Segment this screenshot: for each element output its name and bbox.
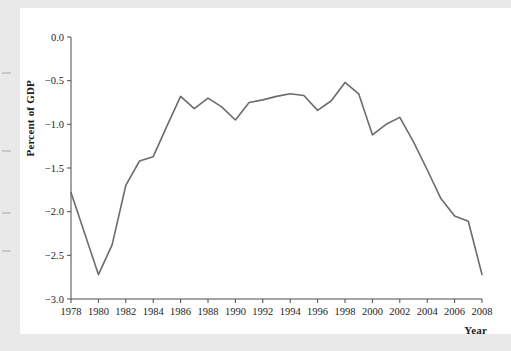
x-tick-label: 1984 [143,306,165,317]
x-tick-label: 1988 [198,306,219,317]
y-tick-label: −0.5 [45,75,64,86]
x-tick-label: 1998 [335,306,356,317]
x-tick-label: 1986 [170,306,191,317]
x-tick-label: 1996 [307,306,328,317]
y-axis-title: Percent of GDP [24,80,36,157]
x-tick-label: 1994 [280,306,302,317]
x-axis-ticks: 1978198019821984198619881990199219941996… [61,299,493,317]
x-tick-label: 2002 [389,306,410,317]
page-root: Percent of GDP Year 0.0−0.5−1.0−1.5−2.0−… [0,0,511,351]
y-axis-ticks: 0.0−0.5−1.0−1.5−2.0−2.5−3.0 [45,32,71,305]
x-tick-label: 2004 [417,306,439,317]
x-tick-label: 2006 [444,306,465,317]
y-tick-label: −2.5 [45,250,64,261]
x-axis-title: Year [464,324,487,336]
chart-canvas: Percent of GDP Year 0.0−0.5−1.0−1.5−2.0−… [0,0,511,351]
x-tick-label: 2008 [472,306,493,317]
y-tick-label: −3.0 [45,294,64,305]
y-tick-label: −2.0 [45,206,64,217]
y-tick-label: −1.0 [45,119,64,130]
x-tick-label: 1990 [225,306,246,317]
data-series-line [71,82,482,274]
y-tick-label: 0.0 [51,32,64,43]
x-tick-label: 2000 [362,306,383,317]
x-tick-label: 1992 [252,306,273,317]
y-tick-label: −1.5 [45,163,64,174]
x-tick-label: 1980 [88,306,109,317]
x-tick-label: 1978 [61,306,82,317]
x-tick-label: 1982 [115,306,136,317]
line-chart-figure: Percent of GDP Year 0.0−0.5−1.0−1.5−2.0−… [0,0,511,351]
